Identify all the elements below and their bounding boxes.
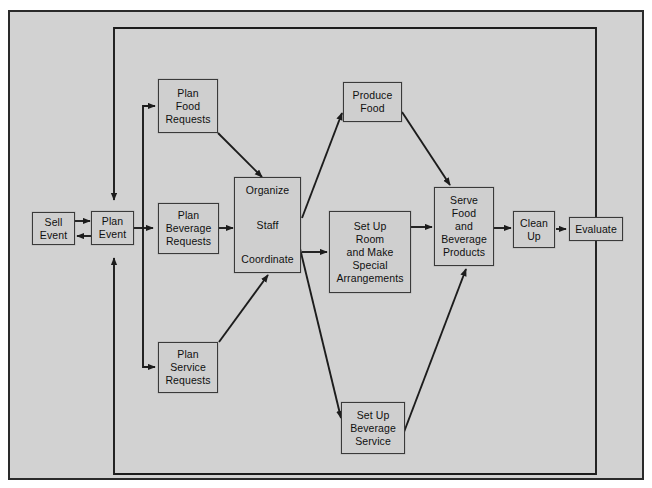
node-set-up-room[interactable]: Set Up Room and Make Special Arrangement…	[329, 211, 411, 293]
node-line: Plan	[177, 87, 198, 100]
node-line: and Make	[347, 246, 394, 259]
node-line: Clean	[520, 217, 548, 230]
node-line: Plan	[102, 215, 123, 228]
node-produce-food[interactable]: Produce Food	[343, 82, 402, 122]
node-line: Plan	[178, 209, 199, 222]
node-line: Set Up	[354, 220, 387, 233]
node-line: Serve	[450, 194, 478, 207]
node-line: Set Up	[357, 409, 390, 422]
node-sell-event[interactable]: Sell Event	[32, 212, 75, 245]
node-line: Requests	[166, 235, 211, 248]
node-line: Special	[352, 259, 387, 272]
node-line: Staff	[237, 219, 298, 232]
node-line: Event	[40, 229, 67, 242]
node-line: Beverage	[350, 422, 396, 435]
node-line: Requests	[165, 113, 210, 126]
node-line: Requests	[165, 374, 210, 387]
node-line: Room	[356, 233, 384, 246]
node-line: Arrangements	[336, 272, 403, 285]
node-line: Up	[527, 230, 541, 243]
node-line: Event	[99, 228, 126, 241]
figure-caption	[110, 0, 530, 9]
node-plan-event[interactable]: Plan Event	[91, 211, 134, 245]
node-line: Service	[170, 361, 206, 374]
node-line: Plan	[177, 348, 198, 361]
node-line: Beverage	[441, 233, 487, 246]
node-line: Sell	[45, 216, 63, 229]
node-line: Food	[360, 102, 384, 115]
node-line: Service	[355, 435, 391, 448]
flowchart-figure: Sell Event Plan Event Plan Food Requests…	[0, 0, 652, 488]
node-plan-service-requests[interactable]: Plan Service Requests	[158, 342, 218, 393]
node-line: Evaluate	[575, 223, 617, 236]
node-organize-staff-coordinate[interactable]: Organize Staff Coordinate	[234, 177, 301, 273]
node-line: Beverage	[166, 222, 212, 235]
node-plan-food-requests[interactable]: Plan Food Requests	[158, 79, 218, 133]
node-evaluate[interactable]: Evaluate	[569, 217, 623, 241]
node-line: Coordinate	[237, 253, 298, 266]
node-line: and	[455, 220, 473, 233]
node-line: Food	[176, 100, 200, 113]
node-line: Products	[443, 246, 485, 259]
node-serve-food-and-beverage-products[interactable]: Serve Food and Beverage Products	[434, 187, 494, 266]
node-line: Produce	[353, 89, 393, 102]
node-line: Food	[452, 207, 476, 220]
node-set-up-beverage-service[interactable]: Set Up Beverage Service	[341, 402, 405, 454]
node-plan-beverage-requests[interactable]: Plan Beverage Requests	[158, 203, 219, 254]
node-line: Organize	[237, 184, 298, 197]
node-clean-up[interactable]: Clean Up	[513, 211, 555, 248]
